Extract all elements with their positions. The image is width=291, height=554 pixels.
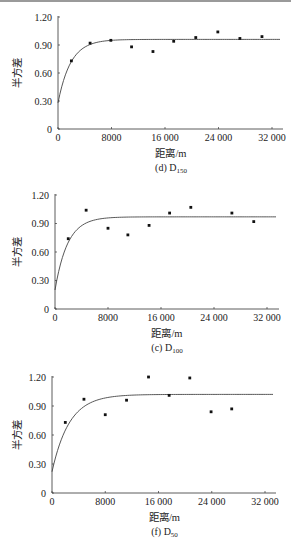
data-point [148, 224, 151, 227]
x-tick-label: 24 000 [205, 132, 233, 143]
data-point [104, 413, 107, 416]
y-tick-label: 0.30 [29, 459, 47, 470]
data-point [67, 237, 70, 240]
x-tick-label: 8000 [102, 132, 122, 143]
caption-subscript: 150 [176, 167, 187, 175]
data-point [109, 39, 112, 42]
x-tick-label: 0 [56, 132, 61, 143]
x-tick-label: 0 [53, 312, 58, 323]
fitted-model-curve [55, 217, 276, 290]
caption-prefix: (f) D [151, 526, 171, 538]
y-axis-title: 半方差 [11, 58, 23, 88]
data-point [188, 377, 191, 380]
data-point [168, 212, 171, 215]
x-tick-label: 8000 [95, 496, 115, 507]
chart-panel-d100: 00.300.600.901.200800016 00024 00032 000… [0, 182, 291, 366]
data-point [64, 421, 67, 424]
data-point [168, 394, 171, 397]
x-tick-label: 24 000 [198, 496, 226, 507]
y-tick-label: 1.20 [32, 190, 50, 201]
x-tick-label: 24 000 [200, 312, 228, 323]
semivariogram-chart-d150: 00.300.600.901.200800016 00024 00032 000… [0, 0, 291, 182]
data-point [189, 206, 192, 209]
data-point [83, 398, 86, 401]
x-tick-label: 8000 [98, 312, 118, 323]
x-tick-label: 16 000 [147, 312, 175, 323]
y-tick-label: 0 [44, 304, 49, 315]
data-point [210, 410, 213, 413]
x-tick-label: 32 000 [253, 312, 281, 323]
data-point [85, 209, 88, 212]
y-tick-label: 0 [41, 488, 46, 499]
chart-caption: (c) D100 [151, 342, 183, 355]
data-point [152, 50, 155, 53]
x-tick-label: 32 000 [258, 132, 286, 143]
y-tick-label: 0.30 [32, 275, 50, 286]
data-point [125, 399, 128, 402]
fitted-model-curve [52, 394, 273, 471]
y-tick-label: 0 [47, 124, 52, 135]
data-point [230, 212, 233, 215]
x-tick-label: 0 [50, 496, 55, 507]
data-point [107, 227, 110, 230]
y-tick-label: 0.60 [32, 247, 50, 258]
x-tick-label: 16 000 [145, 496, 173, 507]
caption-prefix: (d) D [155, 162, 176, 174]
y-tick-label: 0.30 [35, 96, 53, 107]
y-axis-title: 半方差 [11, 237, 23, 267]
y-axis-title: 半方差 [11, 420, 23, 450]
data-point [252, 220, 255, 223]
caption-subscript: 100 [172, 347, 183, 355]
data-point [89, 42, 92, 45]
chart-panel-d150: 00.300.600.901.200800016 00024 00032 000… [0, 0, 291, 182]
y-tick-label: 0.60 [29, 430, 47, 441]
data-point [239, 37, 242, 40]
data-point [172, 40, 175, 43]
data-point [126, 234, 129, 237]
x-tick-label: 32 000 [251, 496, 279, 507]
data-point [194, 36, 197, 39]
data-point [70, 59, 73, 62]
x-axis-title: 距离/m [149, 511, 180, 523]
data-point [230, 408, 233, 411]
data-point [216, 31, 219, 34]
fitted-model-curve [58, 39, 280, 102]
chart-panel-d50: 00.300.600.901.200800016 00024 00032 000… [0, 366, 291, 554]
caption-prefix: (c) D [151, 342, 172, 354]
y-tick-label: 0.90 [29, 401, 47, 412]
y-tick-label: 1.20 [29, 372, 47, 383]
semivariogram-chart-d50: 00.300.600.901.200800016 00024 00032 000… [0, 366, 291, 554]
y-tick-label: 0.90 [32, 218, 50, 229]
data-point [130, 45, 133, 48]
x-axis-title: 距离/m [151, 327, 182, 339]
y-tick-label: 1.20 [35, 12, 53, 23]
caption-subscript: 50 [171, 531, 179, 539]
semivariogram-chart-d100: 00.300.600.901.200800016 00024 00032 000… [0, 182, 291, 366]
data-point [147, 376, 150, 379]
y-tick-label: 0.60 [35, 68, 53, 79]
x-tick-label: 16 000 [151, 132, 179, 143]
chart-caption: (d) D150 [155, 162, 187, 175]
y-tick-label: 0.90 [35, 40, 53, 51]
chart-caption: (f) D50 [151, 526, 178, 539]
x-axis-title: 距离/m [155, 147, 186, 159]
data-point [261, 35, 264, 38]
